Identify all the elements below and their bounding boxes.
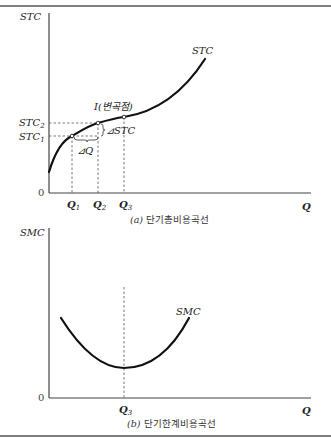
stc2-label: STC2 <box>19 117 45 130</box>
q1-label: Q1 <box>67 199 80 212</box>
smc-x-axis-label: Q <box>302 405 311 416</box>
smc-curve <box>61 318 189 368</box>
q3-label: Q3 <box>119 199 133 212</box>
smc-chart: SMC 0 Q SMC Q3 (b)단기한계비용곡선 <box>20 227 311 429</box>
stc-chart: STC 0 Q STC I(변곡점) ⊿Q ⊿STC STC2 STC1 Q1 … <box>19 11 311 225</box>
stc-origin-label: 0 <box>38 187 44 198</box>
figure-canvas: STC 0 Q STC I(변곡점) ⊿Q ⊿STC STC2 STC1 Q1 … <box>0 0 331 444</box>
point-q2 <box>96 121 100 125</box>
smc-y-axis-label: SMC <box>20 227 45 238</box>
stc1-label: STC1 <box>19 131 45 144</box>
smc-caption: (b)단기한계비용곡선 <box>127 418 216 429</box>
smc-q3-label: Q3 <box>119 404 133 417</box>
delta-q-label: ⊿Q <box>77 145 93 156</box>
cost-curves-figure: STC 0 Q STC I(변곡점) ⊿Q ⊿STC STC2 STC1 Q1 … <box>0 0 331 444</box>
inflection-point <box>122 115 126 119</box>
smc-origin-label: 0 <box>38 392 44 403</box>
q2-label: Q2 <box>93 199 107 212</box>
delta-stc-brace <box>101 124 105 136</box>
stc-y-axis-label: STC <box>20 11 42 22</box>
point-q1 <box>70 134 74 138</box>
delta-stc-label: ⊿STC <box>106 125 136 136</box>
smc-curve-label: SMC <box>176 306 201 317</box>
stc-curve-label: STC <box>192 45 214 56</box>
delta-q-brace <box>74 137 98 142</box>
inflection-label: I(변곡점) <box>93 101 133 112</box>
stc-x-axis-label: Q <box>302 201 311 212</box>
stc-caption: (a)단기총비용곡선 <box>130 214 209 225</box>
